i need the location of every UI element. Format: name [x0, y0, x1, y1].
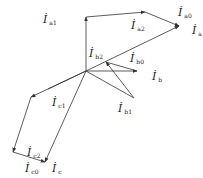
vector-ib2 [106, 62, 134, 98]
label-ia0: İa0 [178, 7, 192, 19]
label-ib2: İb2 [89, 48, 103, 60]
label-ic2: İc2 [27, 147, 41, 159]
vector-ib1 [86, 71, 134, 98]
vector-ia2 [86, 12, 145, 17]
label-ib1: İb1 [118, 103, 132, 115]
vector-ia0 [145, 12, 179, 26]
label-ic1: İc1 [52, 97, 66, 109]
label-ib0: İb0 [130, 53, 144, 65]
label-ic0: İc0 [25, 163, 39, 175]
label-ia2: İa2 [131, 20, 145, 32]
label-ic: İc [52, 163, 62, 175]
vector-ic2 [13, 97, 31, 152]
label-ia: İa [192, 25, 202, 37]
vector-diagram: İa1 İa2 İa0 İa İb2 İb0 İb İb1 İc1 İc2 İc… [0, 0, 203, 178]
vector-ic [45, 71, 86, 162]
label-ib: İb [152, 71, 162, 83]
vector-ic1 [31, 71, 86, 97]
label-ia1: İa1 [43, 14, 57, 26]
